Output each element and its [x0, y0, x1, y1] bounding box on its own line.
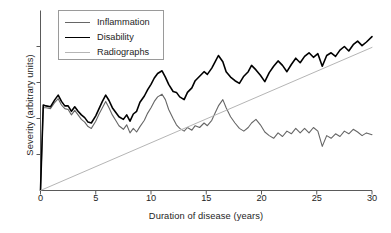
x-tick-label: 25	[306, 193, 328, 203]
series-radiographs	[41, 47, 373, 190]
x-tick-label: 20	[251, 193, 273, 203]
chart-legend: InflammationDisabilityRadiographs	[58, 10, 164, 60]
x-tick-label: 30	[361, 193, 383, 203]
legend-item-label: Inflammation	[97, 18, 150, 27]
y-axis-label: Severity (arbitrary units)	[25, 15, 35, 195]
legend-line-icon	[65, 22, 90, 23]
x-tick-label: 15	[195, 193, 217, 203]
chart-figure: Severity (arbitrary units) Duration of d…	[0, 0, 391, 233]
legend-item-label: Disability	[97, 33, 134, 42]
legend-item-inflammation[interactable]: Inflammation	[59, 15, 163, 30]
legend-item-radiographs[interactable]: Radiographs	[59, 45, 163, 60]
x-tick-label: 5	[85, 193, 107, 203]
legend-line-icon	[65, 37, 90, 38]
legend-line-icon	[65, 52, 90, 53]
legend-item-label: Radiographs	[97, 48, 149, 57]
x-axis-label: Duration of disease (years)	[40, 211, 372, 221]
series-inflammation	[41, 94, 373, 190]
legend-item-disability[interactable]: Disability	[59, 30, 163, 45]
x-tick-label: 10	[140, 193, 162, 203]
x-tick-label: 0	[30, 193, 52, 203]
